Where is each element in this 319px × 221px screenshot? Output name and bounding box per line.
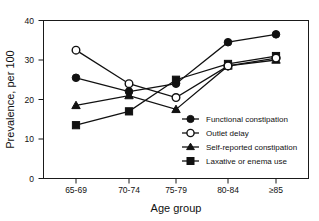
- y-tick-label-30: 30: [25, 55, 35, 65]
- x-axis-ticks: [76, 179, 276, 184]
- legend-marker-filled-square: [187, 158, 194, 165]
- marker-filled-square[interactable]: [125, 108, 132, 115]
- x-axis-title: Age group: [151, 202, 202, 214]
- marker-filled-circle[interactable]: [272, 31, 280, 39]
- marker-filled-square[interactable]: [72, 122, 79, 129]
- chart-figure: 0 10 20 30 40 Prevalence, per 100 65-69 …: [0, 0, 319, 221]
- y-axis-ticks: [39, 21, 44, 179]
- legend-item-outlet-delay[interactable]: Outlet delay: [182, 129, 249, 138]
- legend-marker-open-circle: [187, 129, 194, 136]
- y-tick-label-0: 0: [29, 174, 34, 184]
- chart-legend: Functional constipation Outlet delay Sel…: [182, 115, 297, 166]
- x-tick-label-70-74: 70-74: [118, 185, 140, 195]
- legend-item-laxative-or-enema-use[interactable]: Laxative or enema use: [182, 157, 287, 166]
- legend-label-0: Functional constipation: [206, 115, 288, 124]
- x-tick-label-80-84: 80-84: [217, 185, 239, 195]
- marker-open-circle[interactable]: [172, 94, 180, 102]
- x-tick-label-65-69: 65-69: [65, 185, 87, 195]
- marker-open-circle[interactable]: [72, 46, 80, 54]
- y-tick-label-10: 10: [25, 134, 35, 144]
- marker-open-circle[interactable]: [224, 62, 232, 70]
- marker-filled-circle[interactable]: [224, 38, 232, 46]
- y-tick-label-40: 40: [25, 16, 35, 26]
- marker-filled-square[interactable]: [172, 76, 179, 83]
- x-tick-label-85plus: ≥85: [269, 185, 283, 195]
- legend-label-2: Self-reported constipation: [206, 143, 297, 152]
- prevalence-line-chart: 0 10 20 30 40 Prevalence, per 100 65-69 …: [0, 0, 319, 221]
- legend-label-1: Outlet delay: [206, 129, 249, 138]
- y-axis-title: Prevalence, per 100: [4, 50, 16, 148]
- x-tick-label-75-79: 75-79: [165, 185, 187, 195]
- legend-label-3: Laxative or enema use: [206, 157, 287, 166]
- legend-item-functional-constipation[interactable]: Functional constipation: [182, 115, 288, 124]
- marker-open-circle[interactable]: [125, 80, 133, 88]
- marker-open-circle[interactable]: [272, 54, 280, 62]
- marker-filled-circle[interactable]: [72, 74, 80, 82]
- legend-item-self-reported-constipation[interactable]: Self-reported constipation: [182, 143, 297, 152]
- series-line-outlet-delay: [76, 50, 276, 97]
- legend-marker-filled-circle: [187, 115, 194, 122]
- y-tick-label-20: 20: [25, 95, 35, 105]
